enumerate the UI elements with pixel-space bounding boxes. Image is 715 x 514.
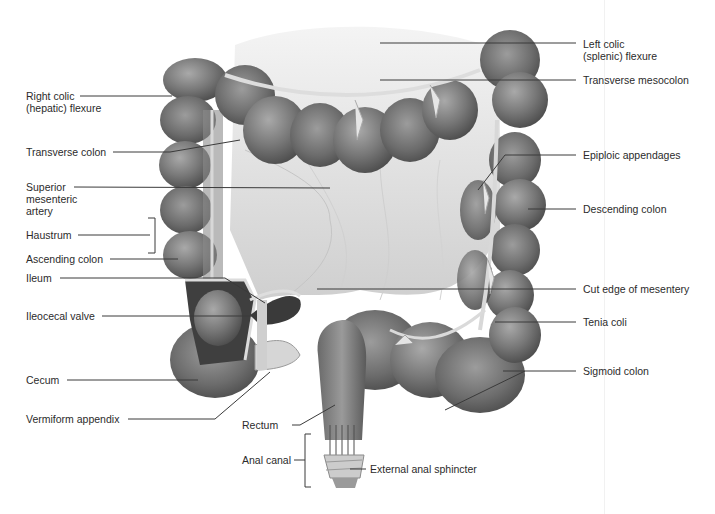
label-vermiform-appendix: Vermiform appendix [26, 413, 119, 425]
label-ascending-colon: Ascending colon [26, 253, 103, 265]
label-cut-edge-of-mesentery: Cut edge of mesentery [583, 283, 689, 295]
label-haustrum: Haustrum [26, 229, 72, 241]
label-ileocecal-valve: Ileocecal valve [26, 310, 95, 322]
label-transverse-mesocolon: Transverse mesocolon [583, 74, 689, 86]
label-anal-canal: Anal canal [242, 454, 291, 466]
rectum-shape [318, 320, 367, 488]
label-external-anal-sphincter: External anal sphincter [370, 463, 477, 475]
label-rectum: Rectum [242, 419, 278, 431]
label-transverse-colon: Transverse colon [26, 146, 106, 158]
label-right-colic-flexure: Right colic (hepatic) flexure [26, 90, 101, 114]
anatomy-figure: Right colic (hepatic) flexure Transverse… [0, 0, 715, 514]
label-epiploic-appendages: Epiploic appendages [583, 149, 681, 161]
label-tenia-coli: Tenia coli [583, 316, 627, 328]
label-left-colic-flexure: Left colic (splenic) flexure [583, 38, 657, 62]
label-ileum: Ileum [26, 272, 52, 284]
label-sigmoid-colon: Sigmoid colon [583, 365, 649, 377]
label-cecum: Cecum [26, 374, 59, 386]
label-descending-colon: Descending colon [583, 203, 666, 215]
label-superior-mesenteric-artery: Superior mesenteric artery [26, 181, 77, 217]
